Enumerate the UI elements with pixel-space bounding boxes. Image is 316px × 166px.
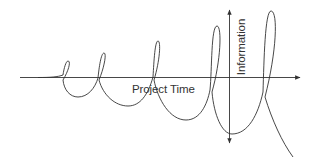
information-label: Information xyxy=(235,19,247,75)
project-time-label: Project Time xyxy=(132,83,195,95)
information-over-time-diagram: Project Time Information xyxy=(0,0,316,166)
